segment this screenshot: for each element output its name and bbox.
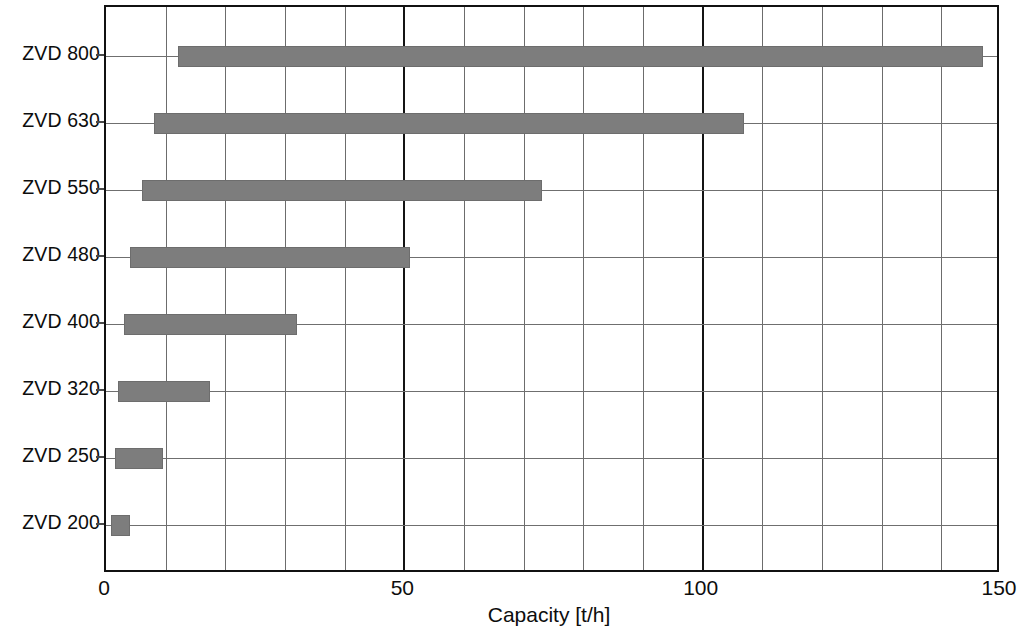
x-axis-tick-label-100: 100: [683, 577, 718, 598]
x-axis-tick-label-0: 0: [98, 577, 110, 598]
x-axis-tick-label-50: 50: [391, 577, 414, 598]
gridline-vertical: [702, 7, 704, 570]
gridline-vertical: [166, 7, 167, 570]
y-axis-category-labels: ZVD 800ZVD 630ZVD 550ZVD 480ZVD 400ZVD 3…: [0, 0, 100, 635]
x-axis: 050100150: [104, 572, 999, 602]
bar-zvd-550: [142, 180, 542, 201]
bar-zvd-200: [111, 515, 130, 536]
y-axis-label-zvd-320: ZVD 320: [4, 379, 100, 399]
y-axis-label-zvd-480: ZVD 480: [4, 245, 100, 265]
gridline-vertical: [345, 7, 346, 570]
gridline-vertical: [464, 7, 465, 570]
bar-zvd-800: [178, 46, 984, 67]
gridline-vertical: [882, 7, 883, 570]
gridline-vertical: [822, 7, 823, 570]
bar-zvd-400: [124, 314, 297, 335]
gridline-horizontal: [106, 458, 997, 459]
gridline-vertical: [762, 7, 763, 570]
gridline-vertical: [285, 7, 286, 570]
bar-zvd-320: [118, 381, 210, 402]
y-axis-label-zvd-800: ZVD 800: [4, 44, 100, 64]
gridline-vertical: [941, 7, 942, 570]
gridline-vertical: [643, 7, 644, 570]
y-axis-label-zvd-250: ZVD 250: [4, 446, 100, 466]
y-axis-label-zvd-550: ZVD 550: [4, 178, 100, 198]
gridline-vertical: [225, 7, 226, 570]
bar-zvd-250: [115, 448, 163, 469]
x-axis-title-text: Capacity [t/h]: [488, 604, 611, 625]
plot-area: [104, 5, 999, 572]
bar-zvd-630: [154, 113, 745, 134]
y-axis-label-zvd-630: ZVD 630: [4, 111, 100, 131]
gridline-vertical: [524, 7, 525, 570]
y-axis-label-zvd-200: ZVD 200: [4, 513, 100, 533]
gridline-horizontal: [106, 391, 997, 392]
gridline-horizontal: [106, 525, 997, 526]
x-axis-tick-label-150: 150: [981, 577, 1016, 598]
bar-zvd-480: [130, 247, 410, 268]
gridline-vertical: [583, 7, 584, 570]
y-axis-label-zvd-400: ZVD 400: [4, 312, 100, 332]
x-axis-title: Capacity [t/h]: [0, 604, 1008, 625]
gridline-vertical: [403, 7, 405, 570]
